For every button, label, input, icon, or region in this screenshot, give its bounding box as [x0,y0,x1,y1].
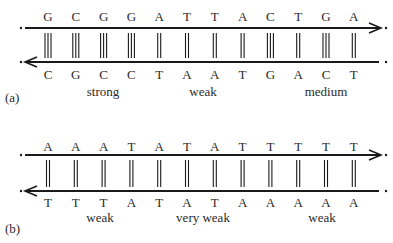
top-base: G [321,9,330,24]
bottom-base: C [99,67,108,82]
top-base: G [127,9,136,24]
top-base: A [155,9,165,24]
triple-hydrogen-bond [45,33,51,58]
triple-hydrogen-bond [101,33,107,58]
panel-tag: (b) [5,221,20,236]
top-base: A [155,139,165,154]
bottom-base: C [44,67,53,82]
bottom-base: A [294,195,304,210]
triple-hydrogen-bond [73,33,79,58]
top-base: T [266,139,274,154]
double-hydrogen-bond [352,33,355,58]
top-base: T [294,139,302,154]
top-base: A [238,9,248,24]
bottom-base: A [127,195,137,210]
bottom-base: T [350,67,358,82]
bottom-base: T [44,195,52,210]
bottom-base: A [238,195,248,210]
strand-end-dot [20,154,22,156]
top-base: T [211,9,219,24]
double-hydrogen-bond [186,160,189,187]
bottom-base: T [155,67,163,82]
bottom-base: T [72,195,80,210]
top-base: T [322,139,330,154]
double-hydrogen-bond [325,160,328,187]
top-base: A [43,139,53,154]
bottom-base: A [266,195,276,210]
double-hydrogen-bond [352,160,355,187]
bond-strength-label: medium [305,84,348,99]
top-base: A [99,139,109,154]
double-hydrogen-bond [74,160,77,187]
double-hydrogen-bond [241,160,244,187]
bottom-base: C [322,67,331,82]
top-base: A [71,139,81,154]
bottom-base: A [349,195,359,210]
strand-end-dot [20,190,22,192]
double-hydrogen-bond [213,33,216,58]
top-base: C [266,9,275,24]
bottom-base: A [182,67,192,82]
top-base: T [183,139,191,154]
double-hydrogen-bond [241,33,244,58]
top-base: G [43,9,52,24]
bottom-base: T [155,195,163,210]
panel-b: ATATATTAATTAATTATATATATAweakvery weakwea… [5,139,387,236]
strand-end-dot [20,27,22,29]
double-hydrogen-bond [297,33,300,58]
top-base: G [99,9,108,24]
strand-end-dot [385,190,387,192]
top-base: C [71,9,80,24]
double-hydrogen-bond [158,33,161,58]
double-hydrogen-bond [102,160,105,187]
top-base: T [239,139,247,154]
bottom-base: C [127,67,136,82]
triple-hydrogen-bond [323,33,329,58]
double-hydrogen-bond [269,160,272,187]
bond-strength-label: very weak [176,210,230,225]
double-hydrogen-bond [297,160,300,187]
triple-hydrogen-bond [128,33,134,58]
double-hydrogen-bond [130,160,133,187]
bond-strength-label: weak [86,210,114,225]
bottom-base: A [321,195,331,210]
bottom-base: T [100,195,108,210]
bond-strength-label: strong [87,84,120,99]
bottom-base: T [239,67,247,82]
strand-end-dot [385,154,387,156]
strand-end-dot [385,27,387,29]
double-hydrogen-bond [47,160,50,187]
bond-strength-label: weak [308,210,336,225]
top-base: T [127,139,135,154]
panel-a: GCCGGCGCATTATAATCGTAGCATstrongweakmedium… [5,9,387,105]
strand-end-dot [385,61,387,63]
bottom-base: G [71,67,80,82]
triple-hydrogen-bond [267,33,273,58]
bottom-base: A [182,195,192,210]
top-base: A [210,139,220,154]
bottom-base: T [211,195,219,210]
bottom-base: A [210,67,220,82]
bond-strength-label: weak [189,84,217,99]
double-hydrogen-bond [213,160,216,187]
dna-base-pairing-diagram: GCCGGCGCATTATAATCGTAGCATstrongweakmedium… [0,0,393,243]
double-hydrogen-bond [158,160,161,187]
top-base: T [294,9,302,24]
strand-end-dot [20,61,22,63]
top-base: T [350,139,358,154]
top-base: A [349,9,359,24]
bottom-base: G [266,67,275,82]
top-base: T [183,9,191,24]
panel-tag: (a) [5,90,19,105]
double-hydrogen-bond [186,33,189,58]
bottom-base: A [294,67,304,82]
